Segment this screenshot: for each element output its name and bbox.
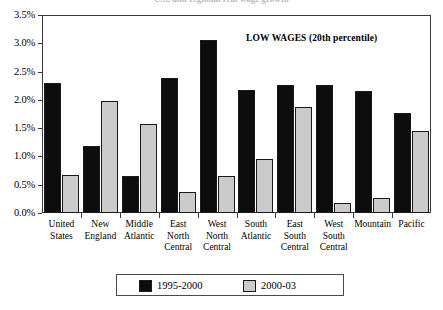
bar-1 [334,203,351,213]
x-axis-category-label: EastNorthCentral [159,219,198,254]
bar-1 [62,175,79,213]
bar-1 [373,198,390,213]
x-axis-category-label: Pacific [392,219,431,231]
bar-1 [140,124,157,213]
x-axis-category-label-line: South [314,231,353,243]
x-axis-category-label-line: West [314,219,353,231]
x-axis-category-label: UnitedStates [42,219,81,242]
x-axis-category-label: WestSouthCentral [314,219,353,254]
legend-swatch-icon [139,280,152,292]
bar-group [392,15,431,213]
bar-group [353,15,392,213]
x-axis-category-label-line: Middle [120,219,159,231]
x-axis-category-label: MiddleAtlantic [120,219,159,242]
bar-group [198,15,237,213]
x-axis-category-label-line: United [42,219,81,231]
bar-chart: U.S. and regional real wage growth 0.0%0… [0,0,443,310]
x-axis-category-label-line: States [42,231,81,243]
x-axis-category-label-line: South [237,219,276,231]
bar-group [42,15,81,213]
legend-label: 1995-2000 [157,280,203,291]
chart-legend: 1995-20002000-03 [116,274,344,296]
bar-1 [101,101,118,213]
y-axis-tick-mark [38,213,42,214]
bar-1 [295,107,312,213]
x-axis-category-label-line: North [198,231,237,243]
x-axis-category-label-line: East [159,219,198,231]
bar-0 [161,78,178,213]
bars-layer [42,15,431,213]
chart-annotation: LOW WAGES (20th percentile) [246,33,377,43]
x-axis-category-label-line: England [81,231,120,243]
bar-1 [218,176,235,213]
x-axis-category-label-line: Central [275,242,314,254]
x-axis-category-label: EastSouthCentral [275,219,314,254]
y-axis: 0.0%0.5%1.0%1.5%2.0%2.5%3.0%3.5% [0,0,42,213]
bar-1 [179,192,196,213]
bar-0 [238,90,255,213]
x-axis-category-label-line: New [81,219,120,231]
y-axis-tick-label: 2.0% [14,95,35,105]
legend-swatch-icon [243,280,256,292]
bar-0 [122,176,139,213]
x-axis-tick-mark [314,213,315,218]
y-axis-tick-label: 3.5% [14,10,35,20]
bar-0 [83,146,100,213]
bar-0 [394,113,411,213]
x-axis-category-label: SouthAtlantic [237,219,276,242]
x-axis-category-label-line: Mountain [353,219,392,231]
x-axis-category-label-line: South [275,231,314,243]
bar-1 [256,159,273,213]
x-axis-tick-mark [81,213,82,218]
x-axis-category-label-line: East [275,219,314,231]
y-axis-tick-label: 1.5% [14,123,35,133]
x-axis-category-label-line: West [198,219,237,231]
x-axis-category-label-line: Atlantic [237,231,276,243]
bar-group [314,15,353,213]
bar-0 [44,83,61,213]
x-axis-category-label: WestNorthCentral [198,219,237,254]
x-axis-category-label-line: Central [159,242,198,254]
bar-0 [277,85,294,213]
y-axis-tick-label: 1.0% [14,151,35,161]
bar-group [237,15,276,213]
x-axis-tick-mark [198,213,199,218]
y-axis-tick-label: 0.0% [14,208,35,218]
bar-0 [355,91,372,213]
bar-group [275,15,314,213]
x-axis-category-label: Mountain [353,219,392,231]
x-axis-tick-mark [275,213,276,218]
y-axis-tick-label: 3.0% [14,38,35,48]
bar-group [159,15,198,213]
x-axis-tick-mark [392,213,393,218]
bar-1 [412,131,429,213]
clipped-header-text: U.S. and regional real wage growth [0,0,443,4]
x-axis-labels: UnitedStatesNewEnglandMiddleAtlanticEast… [42,219,431,265]
y-axis-tick-label: 0.5% [14,180,35,190]
x-axis-tick-mark [237,213,238,218]
bar-group [120,15,159,213]
bar-group [81,15,120,213]
x-axis-category-label-line: Central [314,242,353,254]
y-axis-tick-label: 2.5% [14,67,35,77]
x-axis-category-label-line: Pacific [392,219,431,231]
x-axis-category-label-line: North [159,231,198,243]
x-axis-tick-mark [353,213,354,218]
x-axis-tick-mark [159,213,160,218]
bar-0 [200,40,217,213]
x-axis-category-label-line: Central [198,242,237,254]
x-axis-category-label: NewEngland [81,219,120,242]
legend-item[interactable]: 1995-2000 [139,279,203,292]
x-axis-category-label-line: Atlantic [120,231,159,243]
legend-label: 2000-03 [261,280,296,291]
legend-item[interactable]: 2000-03 [243,279,296,292]
x-axis-tick-mark [120,213,121,218]
bar-0 [316,85,333,213]
